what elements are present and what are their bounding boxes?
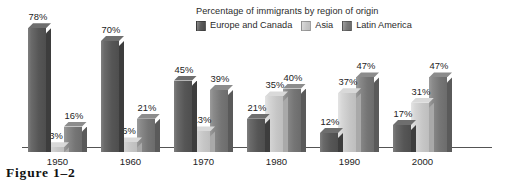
bar-side-face: [46, 28, 51, 152]
x-axis-tick-label-2000: 2000: [383, 156, 463, 167]
bar-1960-europe-and-canada: 70%: [101, 41, 119, 152]
bar-side-face: [82, 127, 87, 152]
bar-top-face: [28, 23, 51, 28]
bar-value-label: 21%: [132, 103, 162, 113]
bar-value-label: 17%: [388, 109, 418, 119]
bar-side-face: [119, 41, 124, 152]
bar-value-label: 70%: [96, 25, 126, 35]
bar-value-label: 47%: [424, 61, 454, 71]
bar-group-bars: 21%35%40%: [247, 5, 306, 152]
x-axis-tick-label-1960: 1960: [91, 156, 171, 167]
bar-group-1980: 21%35%40%1980: [247, 5, 306, 152]
bar-side-face: [155, 119, 160, 152]
bar-1990-europe-and-canada: 12%: [320, 133, 338, 152]
bar-side-face: [447, 77, 452, 152]
bar-1980-europe-and-canada: 21%: [247, 119, 265, 152]
bar-group-bars: 78%3%16%: [28, 5, 87, 152]
x-axis-tick-label-1990: 1990: [310, 156, 390, 167]
bar-side-face: [283, 96, 288, 152]
bar-top-face: [101, 36, 124, 41]
x-axis-tick-label-1970: 1970: [164, 156, 244, 167]
bar-group-2000: 17%31%47%2000: [393, 5, 452, 152]
bar-top-face: [429, 72, 452, 77]
bar-front-face: [28, 28, 46, 152]
bar-side-face: [301, 89, 306, 153]
bar-side-face: [429, 103, 434, 152]
bar-value-label: 35%: [260, 80, 290, 90]
bar-top-face: [210, 85, 233, 90]
bar-1950-europe-and-canada: 78%: [28, 28, 46, 152]
figure-container: Percentage of immigrants by region of or…: [0, 0, 517, 185]
x-axis-tick-label-1980: 1980: [237, 156, 317, 167]
bar-side-face: [228, 90, 233, 152]
plot-area: 78%3%16%195070%6%21%196045%13%39%197021%…: [0, 0, 517, 152]
bar-value-label: 78%: [23, 12, 53, 22]
bar-value-label: 45%: [169, 65, 199, 75]
bar-side-face: [192, 81, 197, 152]
bar-value-label: 21%: [242, 103, 272, 113]
bar-group-1950: 78%3%16%1950: [28, 5, 87, 152]
bar-group-1990: 12%37%47%1990: [320, 5, 379, 152]
bar-group-1960: 70%6%21%1960: [101, 5, 160, 152]
bar-top-face: [64, 122, 87, 127]
bar-front-face: [174, 81, 192, 152]
bar-2000-europe-and-canada: 17%: [393, 125, 411, 152]
bar-front-face: [101, 41, 119, 152]
bar-side-face: [265, 119, 270, 152]
bar-top-face: [174, 76, 197, 81]
bar-value-label: 16%: [59, 111, 89, 121]
bar-top-face: [137, 114, 160, 119]
bar-front-face: [247, 119, 265, 152]
bar-group-bars: 70%6%21%: [101, 5, 160, 152]
bar-side-face: [356, 93, 361, 152]
bar-group-bars: 17%31%47%: [393, 5, 452, 152]
bar-value-label: 12%: [315, 117, 345, 127]
bar-1970-europe-and-canada: 45%: [174, 81, 192, 152]
bar-value-label: 31%: [406, 87, 436, 97]
figure-caption: Figure 1–2: [6, 165, 76, 181]
bar-group-1970: 45%13%39%1970: [174, 5, 233, 152]
bar-value-label: 39%: [205, 74, 235, 84]
bar-value-label: 37%: [333, 77, 363, 87]
bar-front-face: [393, 125, 411, 152]
bar-front-face: [320, 133, 338, 152]
bar-value-label: 47%: [351, 61, 381, 71]
bar-group-bars: 12%37%47%: [320, 5, 379, 152]
bar-side-face: [374, 77, 379, 152]
bar-group-bars: 45%13%39%: [174, 5, 233, 152]
